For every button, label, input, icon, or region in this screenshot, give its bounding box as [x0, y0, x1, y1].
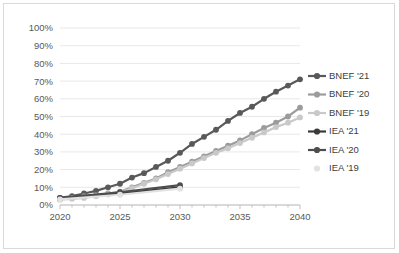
legend-marker-swatch: [314, 128, 320, 134]
series-marker: [297, 105, 303, 111]
series-marker: [297, 114, 303, 120]
series-marker: [213, 127, 219, 133]
x-axis-tick-label: 2030: [169, 211, 190, 222]
y-axis-tick-label: 40%: [34, 129, 54, 140]
gridlines: [60, 28, 300, 205]
legend-item-label: IEA '21: [329, 125, 359, 136]
y-axis-tick-label: 60%: [34, 93, 54, 104]
legend-marker-swatch: [314, 73, 320, 79]
series-marker: [141, 170, 147, 176]
series-marker: [273, 89, 279, 95]
y-axis-tick-label: 50%: [34, 111, 54, 122]
legend-marker-swatch: [314, 165, 320, 171]
series-marker: [225, 118, 231, 124]
series-marker: [189, 141, 195, 147]
series-marker: [105, 184, 111, 190]
y-axis-tick-label: 30%: [34, 146, 54, 157]
series-marker: [57, 196, 63, 202]
x-axis-tick-label: 2025: [109, 211, 130, 222]
y-axis-tick-label: 80%: [34, 58, 54, 69]
series-marker: [285, 83, 291, 89]
series-marker: [285, 120, 291, 126]
series-marker: [165, 158, 171, 164]
series-marker: [297, 76, 303, 82]
series-marker: [213, 150, 219, 156]
data-series: [57, 76, 303, 200]
legend-item-label: IEA '20: [329, 144, 359, 155]
series-marker: [261, 130, 267, 136]
series-marker: [153, 176, 159, 182]
series-marker: [189, 161, 195, 167]
series-marker: [201, 155, 207, 161]
legend-item-label: BNEF '21: [329, 70, 369, 81]
legend-item[interactable]: BNEF '19: [308, 107, 369, 118]
legend-item[interactable]: BNEF '20: [308, 88, 369, 99]
y-axis-tick-label: 70%: [34, 76, 54, 87]
x-axis-tick-label: 2035: [229, 211, 250, 222]
series-marker: [177, 150, 183, 156]
series-marker: [177, 186, 183, 192]
x-axis-tick-label: 2040: [289, 211, 310, 222]
chart-screenshot: 100%90%80%70%60%50%40%30%20%10%0% 202020…: [0, 0, 399, 253]
x-axis-tick-label: 2020: [49, 211, 70, 222]
legend-marker-swatch: [314, 110, 320, 116]
y-axis-tick-label: 0%: [39, 199, 53, 210]
series-marker: [165, 171, 171, 177]
legend-item-label: BNEF '19: [329, 107, 369, 118]
x-axis-tick-labels: 20202025203020352040: [49, 211, 310, 222]
legend-item[interactable]: IEA '19: [314, 162, 359, 173]
series-marker: [129, 175, 135, 181]
legend-item[interactable]: IEA '21: [308, 125, 359, 136]
series-marker: [177, 166, 183, 172]
legend-item-label: IEA '19: [329, 162, 359, 173]
legend-item[interactable]: BNEF '21: [308, 70, 369, 81]
series-marker: [141, 181, 147, 187]
y-axis-tick-label: 20%: [34, 164, 54, 175]
legend-item[interactable]: IEA '20: [308, 144, 359, 155]
series-marker: [285, 114, 291, 120]
legend-item-label: BNEF '20: [329, 88, 369, 99]
series-marker: [237, 140, 243, 146]
data-series-layer: [57, 76, 303, 202]
series-marker: [249, 135, 255, 141]
legend-marker-swatch: [314, 147, 320, 153]
axes: [60, 205, 300, 209]
series-marker: [117, 192, 123, 198]
series-marker: [153, 164, 159, 170]
series-marker: [117, 181, 123, 187]
line-chart: 100%90%80%70%60%50%40%30%20%10%0% 202020…: [0, 0, 399, 253]
series-marker: [225, 145, 231, 151]
y-axis-tick-label: 90%: [34, 40, 54, 51]
chart-legend: BNEF '21BNEF '20BNEF '19IEA '21IEA '20IE…: [308, 70, 369, 174]
series-marker: [249, 104, 255, 110]
series-marker: [261, 96, 267, 102]
series-marker: [273, 124, 279, 130]
series-marker: [237, 110, 243, 116]
y-axis-tick-label: 100%: [29, 22, 54, 33]
series-marker: [201, 134, 207, 140]
y-axis-tick-label: 10%: [34, 182, 54, 193]
y-axis-tick-labels: 100%90%80%70%60%50%40%30%20%10%0%: [29, 22, 54, 210]
legend-marker-swatch: [314, 91, 320, 97]
